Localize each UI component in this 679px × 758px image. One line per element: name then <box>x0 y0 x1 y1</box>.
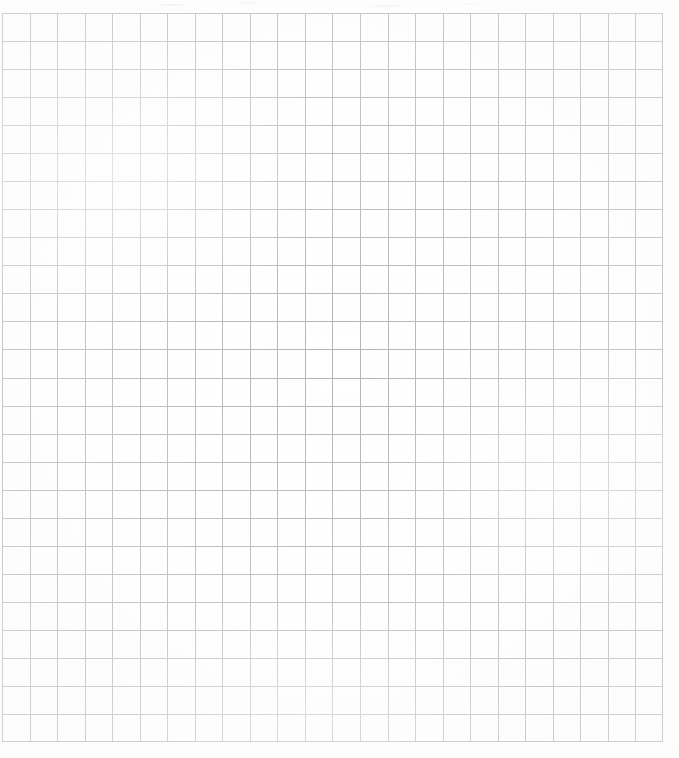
scan-noise-artifact <box>0 0 679 13</box>
page-surface <box>0 0 679 758</box>
grid-lines <box>2 13 663 742</box>
graph-paper-grid <box>2 13 663 742</box>
